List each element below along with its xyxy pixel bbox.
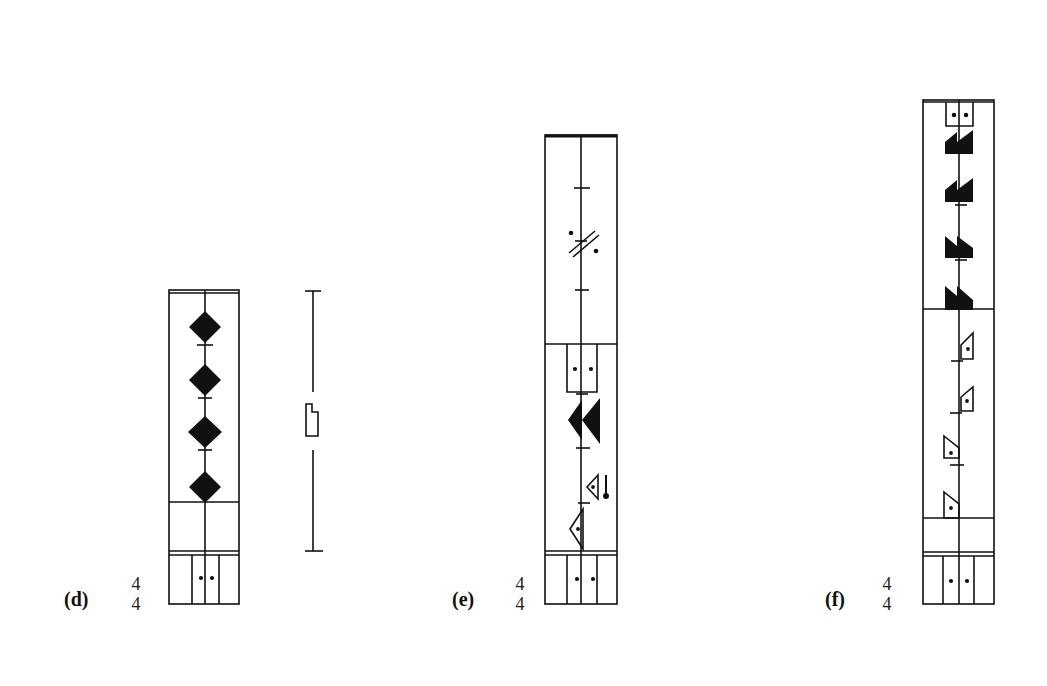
staff-d <box>169 290 323 604</box>
time-signature-d: 4 4 <box>129 574 143 614</box>
time-signature-e: 4 4 <box>513 574 527 614</box>
time-sig-top: 4 <box>880 574 894 594</box>
panel-label-d: (d) <box>64 588 88 611</box>
panel-label-f: (f) <box>825 588 845 611</box>
time-sig-bottom: 4 <box>513 594 527 614</box>
double-direction-icon <box>568 398 600 444</box>
hold-sign-icon <box>569 231 599 257</box>
body-part-sign-icon <box>306 404 318 436</box>
time-signature-f: 4 4 <box>880 574 894 614</box>
time-sig-bottom: 4 <box>129 594 143 614</box>
time-sig-top: 4 <box>513 574 527 594</box>
time-sig-bottom: 4 <box>880 594 894 614</box>
time-sig-top: 4 <box>129 574 143 594</box>
panel-label-e: (e) <box>452 588 474 611</box>
staff-e <box>545 135 617 604</box>
staff-f <box>923 100 994 604</box>
